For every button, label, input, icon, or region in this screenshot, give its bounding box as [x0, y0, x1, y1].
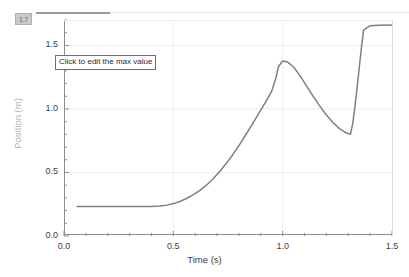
y-tick-label: 0.5 [28, 166, 58, 176]
x-tick-label: 1.0 [268, 241, 298, 251]
edit-max-value-tooltip[interactable]: Click to edit the max value [55, 55, 156, 70]
plot-frame-right [392, 20, 393, 236]
y-tick-label: 1.0 [28, 103, 58, 113]
plot-frame-top [64, 20, 393, 21]
y-axis-title: Position (m) [12, 84, 23, 164]
chart-screen: 1.7 0.00.51.01.5 0.00.51.01.5 Position (… [0, 0, 409, 277]
y-tick-label: 0.0 [28, 230, 58, 240]
y-tick-label: 1.5 [28, 39, 58, 49]
x-axis-title: Time (s) [0, 254, 409, 265]
x-tick-label: 1.5 [377, 241, 407, 251]
plot-axes-frame [64, 20, 392, 235]
x-tick-label: 0.5 [158, 241, 188, 251]
x-tick-label: 0.0 [49, 241, 79, 251]
